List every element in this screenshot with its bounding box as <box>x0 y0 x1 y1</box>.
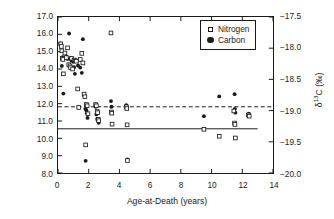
y-left-tick-14.0: 14.0 <box>23 64 53 72</box>
filled-circle-icon <box>205 37 216 44</box>
nitrogen-point <box>97 119 101 123</box>
nitrogen-point <box>126 159 130 163</box>
nitrogen-point <box>77 106 81 110</box>
y-right-tick-−18.0: −18.0 <box>280 43 312 51</box>
y-left-tick-10.0: 10.0 <box>23 135 53 143</box>
nitrogen-point <box>202 127 206 131</box>
nitrogen-point <box>85 104 89 108</box>
figure-scatter-isotopes: 8.09.010.011.012.013.014.015.016.017.0 −… <box>0 0 334 219</box>
y-left-tick-12.0: 12.0 <box>23 100 53 108</box>
carbon-point <box>78 66 82 70</box>
nitrogen-point <box>232 109 236 113</box>
x-tick-4: 4 <box>108 181 130 189</box>
x-tick-0: 0 <box>46 181 68 189</box>
nitrogen-point <box>80 52 84 56</box>
y-right-tick-−20.0: −20.0 <box>280 170 312 178</box>
y-left-tick-11.0: 11.0 <box>23 117 53 125</box>
x-axis-title: Age-at-Death (years) <box>0 196 334 206</box>
y-left-tick-8.0: 8.0 <box>23 170 53 178</box>
y-left-tick-15.0: 15.0 <box>23 47 53 55</box>
nitrogen-point <box>75 59 79 63</box>
nitrogen-data-points <box>59 31 251 162</box>
nitrogen-point <box>109 31 113 35</box>
nitrogen-point <box>76 87 80 91</box>
nitrogen-point <box>95 104 99 108</box>
legend-entry-nitrogen: Nitrogen <box>205 25 249 35</box>
carbon-point <box>80 71 84 75</box>
y-axis-right-title: δ13C (‰) <box>312 73 324 107</box>
nitrogen-point <box>83 95 87 99</box>
x-tick-8: 8 <box>170 181 192 189</box>
carbon-point <box>60 64 64 68</box>
nitrogen-point <box>66 46 70 50</box>
y-right-tick-−19.5: −19.5 <box>280 138 312 146</box>
carbon-point <box>109 99 113 103</box>
nitrogen-point <box>84 143 88 147</box>
carbon-point <box>84 159 88 163</box>
y-left-tick-13.0: 13.0 <box>23 82 53 90</box>
nitrogen-point <box>125 107 129 111</box>
reference-lines <box>58 107 273 129</box>
x-tick-14: 14 <box>263 181 285 189</box>
nitrogen-point <box>63 51 67 55</box>
x-tick-12: 12 <box>232 181 254 189</box>
y-right-tick-−17.5: −17.5 <box>280 12 312 20</box>
nitrogen-point <box>110 122 114 126</box>
y-left-tick-9.0: 9.0 <box>23 152 53 160</box>
nitrogen-point <box>81 61 85 65</box>
carbon-point <box>110 105 114 109</box>
legend-box: Nitrogen Carbon <box>200 20 256 50</box>
nitrogen-point <box>110 111 114 115</box>
carbon-point <box>67 32 71 36</box>
legend-entry-carbon: Carbon <box>205 35 249 45</box>
nitrogen-point <box>96 111 100 115</box>
carbon-point <box>61 92 65 96</box>
y-left-tick-17.0: 17.0 <box>23 12 53 20</box>
nitrogen-point <box>62 72 66 76</box>
legend-label-nitrogen: Nitrogen <box>218 25 249 33</box>
carbon-point <box>202 114 206 118</box>
nitrogen-point <box>233 123 237 127</box>
open-square-icon <box>205 27 216 33</box>
x-tick-2: 2 <box>77 181 99 189</box>
nitrogen-point <box>217 134 221 138</box>
carbon-point <box>73 72 77 76</box>
carbon-point <box>233 92 237 96</box>
nitrogen-point <box>125 123 129 127</box>
y-right-tick-−18.5: −18.5 <box>280 75 312 83</box>
nitrogen-point <box>60 45 64 49</box>
y-left-tick-16.0: 16.0 <box>23 29 53 37</box>
x-tick-6: 6 <box>139 181 161 189</box>
nitrogen-point <box>65 56 69 60</box>
y-right-tick-−19.0: −19.0 <box>280 107 312 115</box>
carbon-point <box>81 37 85 41</box>
nitrogen-point <box>71 67 75 71</box>
legend-label-carbon: Carbon <box>218 36 245 44</box>
nitrogen-point <box>247 114 251 118</box>
nitrogen-point <box>86 112 90 116</box>
carbon-point <box>217 94 221 98</box>
carbon-point <box>86 116 90 120</box>
nitrogen-point <box>234 136 238 140</box>
x-tick-10: 10 <box>201 181 223 189</box>
